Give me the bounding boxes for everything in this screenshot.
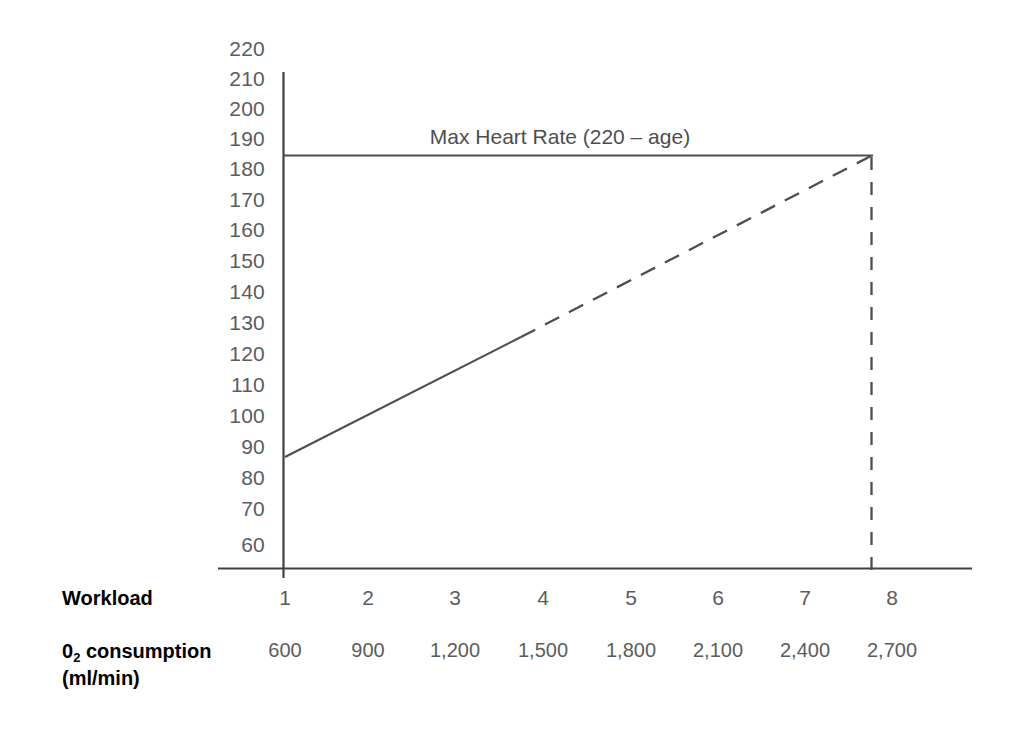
y-tick-label: 190 — [205, 128, 265, 149]
x-tick-label-workload: 4 — [508, 587, 578, 608]
chart-plot-area — [0, 0, 1022, 732]
x-tick-label-workload: 5 — [596, 587, 666, 608]
y-tick-label: 80 — [205, 467, 265, 488]
o2-title-subscript: 2 — [73, 650, 80, 665]
o2-title-zero: 0 — [62, 640, 73, 662]
y-tick-label: 180 — [205, 158, 265, 179]
y-tick-label: 90 — [205, 436, 265, 457]
y-tick-label: 110 — [205, 374, 265, 395]
x-tick-label-workload: 1 — [250, 587, 320, 608]
x-tick-label-o2: 2,100 — [675, 640, 761, 660]
o2-title-word: consumption — [80, 640, 211, 662]
y-tick-label: 210 — [205, 68, 265, 89]
y-tick-label: 120 — [205, 343, 265, 364]
y-tick-label: 150 — [205, 250, 265, 271]
x-tick-label-o2: 2,400 — [762, 640, 848, 660]
x-tick-label-workload: 8 — [857, 587, 927, 608]
chart-figure: 220 210 200 190 180 170 160 150 140 130 … — [0, 0, 1022, 732]
x-tick-label-o2: 1,200 — [412, 640, 498, 660]
x-tick-label-workload: 7 — [770, 587, 840, 608]
x-tick-label-workload: 3 — [420, 587, 490, 608]
x-tick-label-o2: 600 — [242, 640, 328, 660]
y-tick-label: 200 — [205, 98, 265, 119]
max-heart-rate-annotation: Max Heart Rate (220 – age) — [400, 126, 720, 148]
y-tick-label: 70 — [205, 498, 265, 519]
o2-consumption-axis-title: 02 consumption (ml/min) — [62, 639, 211, 691]
x-tick-label-o2: 2,700 — [849, 640, 935, 660]
heart-rate-solid-segment — [285, 337, 521, 457]
x-tick-label-workload: 2 — [333, 587, 403, 608]
heart-rate-dashed-segment — [521, 156, 871, 337]
y-tick-label: 220 — [205, 38, 265, 59]
x-tick-label-workload: 6 — [683, 587, 753, 608]
x-tick-label-o2: 900 — [325, 640, 411, 660]
o2-title-line2: (ml/min) — [62, 667, 140, 689]
y-tick-label: 170 — [205, 189, 265, 210]
x-tick-label-o2: 1,500 — [500, 640, 586, 660]
y-tick-label: 140 — [205, 281, 265, 302]
x-tick-label-o2: 1,800 — [588, 640, 674, 660]
o2-title-line1: 02 consumption — [62, 640, 211, 662]
y-tick-label: 100 — [205, 405, 265, 426]
y-tick-label: 130 — [205, 312, 265, 333]
workload-axis-title: Workload — [62, 586, 153, 611]
y-tick-label: 160 — [205, 219, 265, 240]
y-tick-label: 60 — [205, 534, 265, 555]
